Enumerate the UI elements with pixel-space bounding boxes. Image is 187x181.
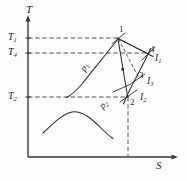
ts-diagram-figure: T S T1 T4 T2 1 2 3 4 p1 p2 I1 I3 I2 bbox=[0, 0, 187, 181]
y-tick-label-T4: T4 bbox=[8, 47, 17, 58]
x-axis-label: S bbox=[156, 160, 162, 171]
y-tick-sub-T4: 4 bbox=[14, 51, 17, 58]
curve-saturation-dome bbox=[43, 112, 113, 139]
y-tick-label-T2: T2 bbox=[8, 91, 17, 102]
state-point-label-4: 4 bbox=[150, 45, 155, 54]
y-tick-sub-T2: 2 bbox=[14, 95, 17, 102]
enthalpy-label-I3: I3 bbox=[147, 77, 153, 87]
process-lines-group bbox=[43, 39, 153, 139]
tick-secondary-at-point-2 bbox=[113, 84, 131, 92]
y-tick-sub-T1: 1 bbox=[14, 36, 17, 43]
y-tick-label-T1: T1 bbox=[8, 32, 17, 43]
axes-group bbox=[25, 15, 178, 160]
x-axis-arrowhead bbox=[172, 154, 179, 159]
marker-point-2 bbox=[126, 95, 129, 98]
y-axis-arrowhead bbox=[25, 15, 30, 22]
state-point-label-1: 1 bbox=[119, 25, 124, 34]
state-point-label-2: 2 bbox=[130, 98, 135, 107]
diagram-canvas bbox=[0, 0, 187, 181]
marker-midpoint-square bbox=[121, 68, 124, 71]
enthalpy-label-I1: I1 bbox=[155, 54, 161, 64]
enthalpy-sub-I3: 3 bbox=[150, 80, 153, 87]
y-axis-label: T bbox=[26, 4, 32, 15]
enthalpy-sub-I2: 2 bbox=[143, 96, 146, 103]
curve-p1-isobar bbox=[67, 39, 118, 98]
enthalpy-sub-I1: 1 bbox=[158, 57, 161, 64]
state-point-label-3: 3 bbox=[139, 71, 144, 80]
enthalpy-label-I2: I2 bbox=[140, 93, 146, 103]
marker-point-1 bbox=[117, 38, 120, 41]
